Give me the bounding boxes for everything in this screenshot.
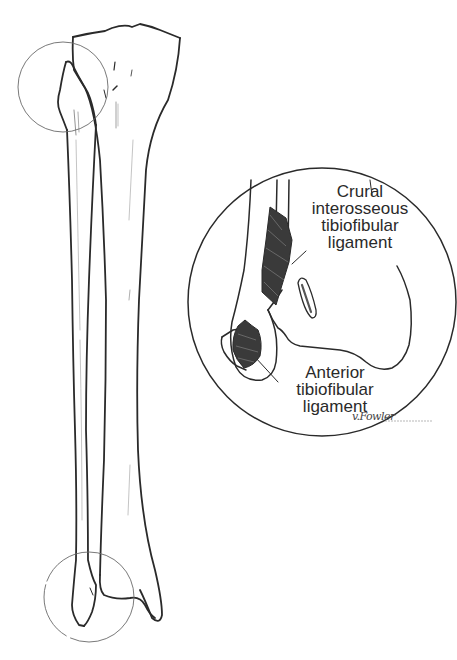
label-anterior-tibiofibular-ligament: Anterior tibiofibular ligament — [270, 364, 400, 415]
crural-leader-line — [292, 251, 306, 264]
label-crural-interosseous-ligament: Crural interosseous tibiofibular ligamen… — [290, 183, 430, 251]
label-line: interosseous — [290, 200, 430, 217]
fibula — [58, 62, 96, 627]
artist-signature: v.Fowler — [352, 410, 395, 423]
tibia-fibula-illustration — [0, 0, 457, 660]
label-line: tibiofibular — [290, 217, 430, 234]
label-line: Anterior — [270, 364, 400, 381]
anterior-tibiofibular-ligament — [233, 320, 261, 368]
label-line: tibiofibular — [270, 381, 400, 398]
crural-interosseous-ligament — [262, 207, 292, 305]
label-line: Crural — [290, 183, 430, 200]
label-line: ligament — [290, 234, 430, 251]
